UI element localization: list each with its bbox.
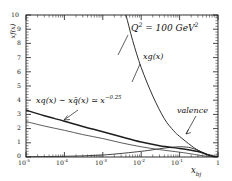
x-tick-mantissa: 10 (133, 159, 141, 166)
leader-sea (64, 110, 78, 120)
sea-sim-symbol: ∼ (59, 96, 66, 105)
axis-frame (26, 15, 218, 157)
x-tick-label-1e-4: 10-4 (56, 160, 68, 166)
x-axis-label-sub: bj (196, 171, 201, 177)
y-axis-label-text: xf(x) (9, 24, 17, 39)
x-tick-label-1: 1 (216, 160, 220, 166)
x-tick-label-1e-3: 10-3 (95, 160, 107, 166)
leader-xg (132, 64, 140, 82)
leader-q2 (118, 35, 128, 55)
annotation-gluon: xg(x) (143, 53, 163, 61)
sea-part1: xq(x) (36, 96, 59, 105)
y-tick-label-1: 1 (17, 139, 21, 145)
y-axis-major-ticks (26, 15, 218, 157)
x-axis-major-ticks (26, 15, 218, 157)
annotation-sea-quarks: xq(x) ∼ xq̄(x) ≃ x−0.25 (36, 97, 122, 105)
y-tick-label-5: 5 (17, 83, 21, 89)
annotation-valence: valence (177, 107, 208, 115)
annotation-leaders (64, 35, 196, 134)
sea-part4: x (98, 96, 105, 105)
x-tick-exponent: -1 (179, 158, 183, 163)
y-axis-minor-ticks (26, 18, 218, 154)
sea-simeq-symbol: ≃ (91, 96, 98, 105)
x-tick-mantissa: 1 (216, 159, 220, 166)
x-tick-mantissa: 10 (95, 159, 103, 166)
x-tick-label-1e-2: 10-2 (133, 160, 145, 166)
y-tick-label-6: 6 (17, 69, 21, 75)
y-tick-label-7: 7 (17, 55, 21, 61)
y-tick-label-4: 4 (17, 97, 21, 103)
sea-part2: x (66, 96, 73, 105)
sea-part3: (x) (78, 96, 91, 105)
x-tick-label-1e-1: 10-1 (171, 160, 183, 166)
x-axis-label: xbj (191, 166, 201, 175)
sea-exponent: −0.25 (105, 94, 122, 100)
x-tick-mantissa: 10 (18, 159, 26, 166)
x-tick-exponent: -3 (103, 158, 107, 163)
annotation-q-squared: Q2 = 100 GeV2 (131, 24, 199, 33)
x-tick-exponent: -2 (141, 158, 145, 163)
y-tick-label-8: 8 (17, 40, 21, 46)
y-tick-label-9: 9 (17, 26, 21, 32)
annotation-valence-text: valence (177, 106, 208, 115)
x-tick-mantissa: 10 (171, 159, 179, 166)
x-axis-minor-ticks (38, 15, 217, 157)
curve-quark-sea (26, 110, 218, 157)
y-axis-label: xf(x) (9, 14, 17, 48)
y-tick-label-2: 2 (17, 125, 21, 131)
curve-antiquark-sea (26, 122, 218, 158)
pdf-chart-figure: 10 9 8 7 6 5 4 3 2 1 0 xf(x) 10-5 10-4 1… (0, 0, 232, 181)
x-tick-mantissa: 10 (56, 159, 64, 166)
q2-equals-value: = 100 GeV (142, 23, 194, 33)
curve-valence (26, 147, 218, 157)
x-tick-exponent: -4 (64, 158, 68, 163)
leader-valence-arrow (186, 130, 191, 135)
annotation-gluon-text: xg(x) (143, 52, 163, 61)
q2-unit-exponent: 2 (195, 21, 199, 28)
x-tick-exponent: -5 (26, 158, 30, 163)
x-tick-label-1e-5: 10-5 (18, 160, 30, 166)
y-tick-label-3: 3 (17, 111, 21, 117)
